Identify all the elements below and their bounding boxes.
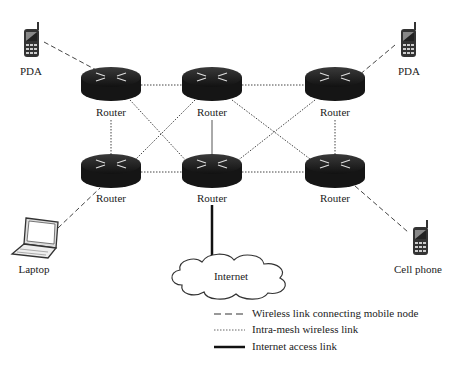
router-label: Router: [320, 106, 350, 118]
router-label: Router: [320, 192, 350, 204]
pda-left-label: PDA: [20, 65, 42, 77]
legend-wireless-mobile: Wireless link connecting mobile node: [252, 307, 418, 319]
laptop-label: Laptop: [18, 263, 49, 275]
cell-phone-icon: [413, 220, 428, 255]
cell-phone-label: Cell phone: [394, 263, 442, 275]
internet-label: Internet: [214, 270, 248, 282]
router-icon: [182, 154, 242, 188]
router-label: Router: [197, 192, 227, 204]
router-label: Router: [96, 106, 126, 118]
router-label: Router: [96, 192, 126, 204]
router-icon: [305, 67, 365, 101]
pda-right-label: PDA: [398, 65, 420, 77]
pda-icon: [401, 22, 416, 57]
laptop-icon: [12, 218, 58, 258]
legend-intra-mesh: Intra-mesh wireless link: [252, 323, 358, 335]
router-icon: [81, 67, 141, 101]
router-icon: [81, 154, 141, 188]
router-icon: [305, 154, 365, 188]
router-icon: [182, 67, 242, 101]
legend-internet-access: Internet access link: [252, 340, 337, 352]
router-label: Router: [197, 106, 227, 118]
pda-icon: [24, 22, 39, 57]
